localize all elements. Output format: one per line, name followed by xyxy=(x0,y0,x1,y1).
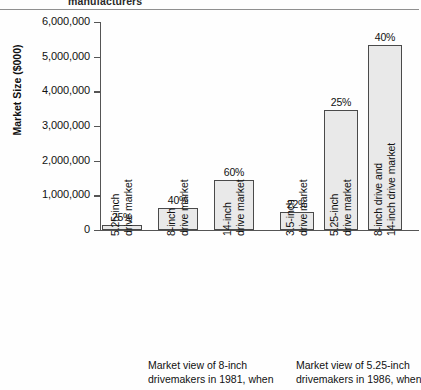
cut-off-header-text: manufacturers xyxy=(68,0,142,7)
category-label-line1: 5.25-inch xyxy=(328,194,340,236)
bar-value-label: 25% xyxy=(315,96,367,108)
group-caption-line1: Market view of 5.25-inch xyxy=(296,358,421,372)
y-axis-tick-label: 4,000,000 xyxy=(42,84,90,96)
x-axis-category-label: 14-inchdrive market xyxy=(221,179,246,236)
category-label-line1: 8-inch drive and xyxy=(372,163,384,236)
y-axis-tick-label: 5,000,000 xyxy=(42,50,90,62)
y-axis-tick xyxy=(94,57,100,58)
category-label-line2: drive market xyxy=(122,179,135,236)
bar-value-label: 40% xyxy=(359,31,411,43)
header-divider xyxy=(0,9,419,10)
y-axis-tick-label: 6,000,000 xyxy=(42,15,90,27)
group-caption-line2: drivemakers in 1986, when xyxy=(296,372,421,386)
bar-value-label: 60% xyxy=(208,166,260,178)
y-axis-tick-label: 2,000,000 xyxy=(42,154,90,166)
y-axis-tick-label: 1,000,000 xyxy=(42,188,90,200)
y-axis-tick-label: 3,000,000 xyxy=(42,119,90,131)
y-axis-tick-label: 0 xyxy=(84,223,90,235)
category-label-line2: 14-inch drive market xyxy=(385,143,398,236)
group-caption: Market view of 5.25-inchdrivemakers in 1… xyxy=(296,358,421,386)
category-label-line1: 8-inch xyxy=(165,208,177,236)
category-label-line2: drive market xyxy=(234,179,247,236)
group-caption-line1: Market view of 8-inch xyxy=(148,358,273,372)
category-label-line2: drive market xyxy=(178,179,191,236)
x-axis-category-label: 5.25-inchdrive market xyxy=(109,179,134,236)
x-axis-category-label: 3.5-inchdrive market xyxy=(284,179,309,236)
y-axis-tick xyxy=(94,195,100,196)
category-label-line1: 5.25-inch xyxy=(109,194,121,236)
y-axis-tick xyxy=(94,230,100,231)
y-axis-tick xyxy=(94,22,100,23)
group-caption: Market view of 8-inchdrivemakers in 1981… xyxy=(148,358,273,386)
category-label-line2: drive market xyxy=(297,179,310,236)
y-axis-tick xyxy=(94,126,100,127)
x-axis-category-label: 8-inchdrive market xyxy=(165,179,190,236)
y-axis-line xyxy=(100,22,101,231)
group-caption-line2: drivemakers in 1981, when xyxy=(148,372,273,386)
category-label-line1: 3.5-inch xyxy=(284,199,296,236)
y-axis-title: Market Size ($000) xyxy=(11,15,23,165)
x-axis-category-label: 8-inch drive and14-inch drive market xyxy=(372,143,397,236)
category-label-line1: 14-inch xyxy=(221,202,233,236)
y-axis-tick xyxy=(94,161,100,162)
x-axis-category-label: 5.25-inchdrive market xyxy=(328,179,353,236)
y-axis-tick xyxy=(94,91,100,92)
category-label-line2: drive market xyxy=(341,179,354,236)
